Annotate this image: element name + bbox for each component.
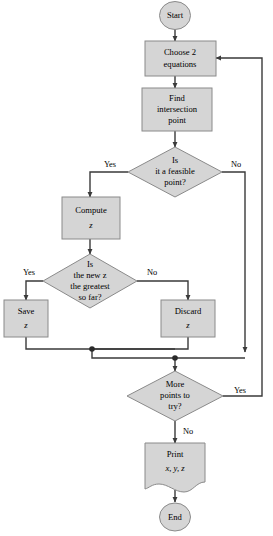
choose-equations-label-line2: equations	[164, 59, 198, 69]
discard-z-label-line2: z	[185, 320, 190, 330]
greatest-decision-label-line3: the greatest	[70, 281, 110, 291]
junction-dot-lower-bus	[172, 355, 178, 361]
feasible-decision-label-line2: it a feasible	[155, 166, 195, 176]
compute-z-label-line2: z	[88, 220, 93, 230]
greatest-decision-label-line2: the new z	[74, 270, 107, 280]
flowchart-diagram: Start Choose 2 equations Find intersecti…	[0, 0, 273, 536]
save-z-label-line2: z	[23, 320, 28, 330]
node-more-points-decision: More points to try?	[127, 371, 223, 421]
feasible-decision-label-line3: point?	[164, 177, 186, 187]
greatest-decision-label-line1: Is	[87, 259, 94, 269]
edge-merge-bus-drop	[92, 349, 175, 358]
feasible-decision-label-line1: Is	[172, 155, 179, 165]
discard-z-label-line1: Discard	[175, 306, 202, 316]
print-output-label-line1: Print	[167, 449, 184, 459]
edge-feasible-yes-to-compute	[90, 172, 128, 197]
node-find-intersection: Find intersection point	[142, 88, 212, 131]
compute-z-label-line1: Compute	[75, 205, 107, 215]
node-end: End	[160, 503, 191, 531]
edge-label-greatest-yes: Yes	[23, 268, 35, 277]
more-points-label-line3: try?	[168, 401, 182, 411]
edge-greatest-no-to-discard	[137, 281, 188, 300]
edge-label-greatest-no: No	[147, 268, 157, 277]
edge-greatest-yes-to-save	[26, 281, 43, 300]
edge-label-more-yes: Yes	[234, 386, 246, 395]
node-print-output: Print x, y, z	[145, 443, 205, 492]
junction-dot-upper-bus	[89, 346, 95, 352]
end-label: End	[168, 512, 183, 522]
edge-label-more-no: No	[183, 427, 193, 436]
start-label: Start	[167, 10, 184, 20]
node-save-z: Save z	[4, 300, 48, 337]
edge-save-to-merge	[26, 337, 175, 349]
edge-discard-to-merge	[92, 337, 188, 349]
edge-label-feasible-no: No	[231, 160, 241, 169]
more-points-label-line2: points to	[160, 390, 190, 400]
print-output-label-line2: x, y, z	[164, 463, 185, 473]
save-z-label-line1: Save	[18, 306, 35, 316]
find-intersection-label-line3: point	[168, 115, 186, 125]
node-discard-z: Discard z	[161, 300, 215, 337]
node-compute-z: Compute z	[62, 197, 120, 239]
node-start: Start	[160, 2, 191, 30]
edge-feasible-no-to-merge	[222, 172, 245, 352]
node-greatest-decision: Is the new z the greatest so far?	[43, 254, 137, 308]
more-points-label-line1: More	[166, 379, 185, 389]
compute-z-shape	[62, 197, 120, 239]
find-intersection-label-line2: intersection	[157, 104, 198, 114]
node-choose-equations: Choose 2 equations	[145, 41, 216, 76]
node-feasible-decision: Is it a feasible point?	[128, 147, 222, 197]
greatest-decision-label-line4: so far?	[78, 292, 101, 302]
edge-more-yes-loop-back	[216, 58, 262, 396]
edge-label-feasible-yes: Yes	[104, 160, 116, 169]
choose-equations-label-line1: Choose 2	[164, 47, 196, 57]
find-intersection-label-line1: Find	[169, 93, 185, 103]
flowchart-canvas: Start Choose 2 equations Find intersecti…	[0, 0, 273, 536]
